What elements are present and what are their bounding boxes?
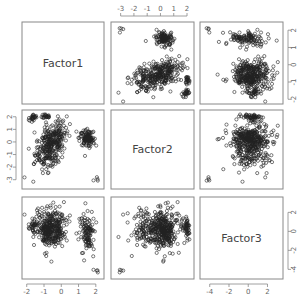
data-point bbox=[41, 172, 44, 175]
diag-label-factor1: Factor1 bbox=[43, 57, 84, 70]
data-point bbox=[153, 210, 156, 213]
data-point bbox=[68, 123, 71, 126]
data-point bbox=[118, 31, 121, 34]
data-point bbox=[122, 100, 125, 103]
tick-label: -2 bbox=[130, 5, 137, 13]
data-point bbox=[276, 133, 279, 136]
data-point bbox=[23, 176, 26, 179]
data-point bbox=[95, 176, 98, 179]
data-point bbox=[186, 58, 189, 61]
data-point bbox=[241, 91, 244, 94]
data-point bbox=[176, 201, 179, 204]
diag-label-factor3: Factor3 bbox=[221, 232, 262, 245]
data-point bbox=[160, 59, 163, 62]
tick-label: -2 bbox=[23, 288, 30, 296]
data-point bbox=[256, 172, 259, 175]
data-point bbox=[221, 136, 224, 139]
data-point bbox=[32, 180, 35, 183]
tick-label: 0 bbox=[290, 229, 298, 233]
data-point bbox=[170, 57, 173, 60]
data-point bbox=[152, 96, 155, 99]
data-point bbox=[176, 231, 179, 234]
data-point bbox=[186, 67, 189, 70]
tick-label: 0 bbox=[59, 288, 63, 296]
data-point bbox=[264, 176, 267, 179]
data-point bbox=[148, 62, 151, 65]
data-point bbox=[176, 242, 179, 245]
data-point bbox=[23, 213, 26, 216]
data-point bbox=[245, 45, 248, 48]
data-point bbox=[237, 171, 240, 174]
data-point bbox=[142, 66, 145, 69]
tick-label: -1 bbox=[144, 5, 151, 13]
data-point bbox=[35, 215, 38, 218]
data-point bbox=[208, 31, 211, 34]
data-point bbox=[41, 168, 44, 171]
data-point bbox=[237, 58, 240, 61]
data-point bbox=[275, 39, 278, 42]
tick-label: -2 bbox=[290, 96, 298, 103]
data-point bbox=[55, 215, 58, 218]
data-point bbox=[276, 71, 279, 74]
data-point bbox=[257, 55, 260, 58]
data-point bbox=[276, 124, 279, 127]
data-point bbox=[64, 139, 67, 142]
data-point bbox=[61, 151, 64, 154]
data-point bbox=[246, 124, 249, 127]
data-point bbox=[270, 78, 273, 81]
data-point bbox=[241, 180, 244, 183]
data-point bbox=[207, 176, 210, 179]
tick-label: 2 bbox=[265, 288, 269, 296]
data-point bbox=[221, 31, 224, 34]
data-point bbox=[88, 219, 91, 222]
tick-label: -1 bbox=[41, 288, 48, 296]
data-point bbox=[270, 82, 273, 85]
data-point bbox=[95, 221, 98, 224]
data-point bbox=[83, 259, 86, 262]
data-point bbox=[225, 123, 228, 126]
data-point bbox=[145, 207, 148, 210]
tick-label: 2 bbox=[290, 210, 298, 214]
data-point bbox=[273, 74, 276, 77]
data-point bbox=[130, 234, 133, 237]
data-point bbox=[126, 82, 129, 85]
tick-label: 1 bbox=[172, 5, 176, 13]
data-point bbox=[174, 58, 177, 61]
data-point bbox=[266, 33, 269, 36]
data-point bbox=[256, 44, 259, 47]
data-point bbox=[169, 90, 172, 93]
data-point bbox=[216, 73, 219, 76]
data-point bbox=[49, 204, 52, 207]
data-point bbox=[166, 206, 169, 209]
data-point bbox=[117, 235, 120, 238]
data-point bbox=[45, 207, 48, 210]
data-point bbox=[32, 243, 35, 246]
data-point bbox=[272, 65, 275, 68]
data-point bbox=[239, 46, 242, 49]
data-point bbox=[84, 202, 87, 205]
data-point bbox=[263, 55, 266, 58]
data-point bbox=[144, 39, 147, 42]
data-point bbox=[127, 239, 130, 242]
data-point bbox=[229, 31, 232, 34]
data-point bbox=[46, 205, 49, 208]
tick-label: 0 bbox=[246, 288, 250, 296]
data-point bbox=[270, 154, 273, 157]
data-point bbox=[137, 212, 140, 215]
data-point bbox=[122, 28, 125, 31]
scatterplot-matrix: -3-2-1012210-1-2210-1-2-320-2-4-2-1012-4… bbox=[0, 0, 306, 301]
data-point bbox=[62, 224, 65, 227]
data-point bbox=[135, 223, 138, 226]
data-point bbox=[61, 245, 64, 248]
diag-label-factor2: Factor2 bbox=[132, 143, 173, 156]
data-point bbox=[42, 133, 45, 136]
data-point bbox=[169, 244, 172, 247]
data-point bbox=[82, 212, 85, 215]
data-point bbox=[177, 78, 180, 81]
data-point bbox=[177, 251, 180, 254]
data-point bbox=[243, 168, 246, 171]
data-point bbox=[32, 235, 35, 238]
tick-label: 2 bbox=[290, 28, 298, 32]
data-point bbox=[126, 212, 129, 215]
data-point bbox=[58, 205, 61, 208]
